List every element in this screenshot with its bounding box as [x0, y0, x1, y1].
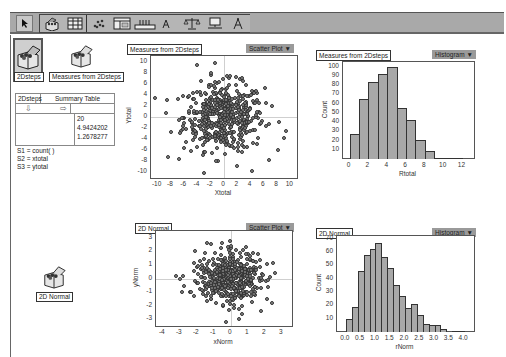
x-tick-label: 1.5	[381, 334, 397, 341]
data-point	[184, 127, 188, 131]
data-point	[229, 244, 233, 248]
collection-2dsteps[interactable]	[15, 44, 41, 71]
compass-tool-button[interactable]	[227, 15, 250, 32]
summary-table-tool-button[interactable]	[111, 15, 134, 32]
data-point	[214, 289, 218, 293]
data-point	[237, 267, 241, 271]
data-point	[256, 136, 260, 140]
web-view-tool-button[interactable]	[204, 15, 227, 32]
data-point	[232, 130, 236, 134]
data-point	[201, 143, 205, 147]
summary-value-s3: 1.2678277	[77, 132, 114, 141]
data-point	[205, 299, 209, 303]
data-point	[234, 103, 238, 107]
data-point	[240, 150, 244, 154]
data-point	[245, 130, 249, 134]
data-point	[213, 251, 217, 255]
x-axis-label: Xtotal	[211, 189, 235, 196]
data-point	[178, 131, 182, 135]
y-tick-label: 30	[320, 287, 333, 294]
collection-label-measures[interactable]: Measures from 2Dsteps	[49, 72, 124, 82]
scatter-plot-xnorm-ynorm[interactable]	[155, 230, 293, 327]
collection-label-2d-normal[interactable]: 2D Normal	[36, 292, 73, 302]
y-tick-label: 70	[326, 89, 339, 96]
graph-tool-button[interactable]	[87, 15, 110, 32]
data-point	[266, 278, 270, 282]
data-point	[205, 285, 209, 289]
data-point	[229, 125, 233, 129]
data-point	[245, 290, 249, 294]
data-point	[259, 286, 263, 290]
data-point	[237, 307, 241, 311]
collection-2d-normal[interactable]	[42, 265, 66, 290]
histogram-bar	[453, 158, 463, 159]
data-point	[248, 107, 252, 111]
data-box-tool-button[interactable]	[40, 15, 63, 32]
data-point	[244, 252, 248, 256]
data-point	[258, 258, 262, 262]
right-arrow-drop-target-icon[interactable]: ⇨	[41, 104, 71, 113]
data-point	[237, 294, 241, 298]
data-point	[219, 88, 223, 92]
collection-label-2dsteps[interactable]: 2Dsteps	[14, 72, 44, 82]
y-tick-label: 70	[320, 234, 333, 241]
data-point	[276, 148, 280, 152]
histogram-rtotal[interactable]	[342, 61, 475, 159]
data-point	[258, 265, 262, 269]
slider-tool-button[interactable]	[134, 15, 157, 32]
monitor-icon	[207, 17, 223, 30]
x-tick-label: 8	[416, 161, 432, 168]
y-tick-label: 4	[134, 90, 147, 97]
data-point	[259, 121, 263, 125]
data-point	[255, 142, 259, 146]
x-tick-label: 4	[244, 180, 256, 187]
x-tick-label: 10	[435, 161, 451, 168]
data-point	[189, 149, 193, 153]
formula-s1[interactable]: S1 = count( )	[17, 147, 54, 155]
y-tick-label: -2	[139, 301, 152, 308]
y-tick-label: 20	[320, 300, 333, 307]
summary-collection-name: 2Dsteps	[16, 94, 41, 103]
data-point	[214, 301, 218, 305]
text-icon	[161, 17, 177, 30]
x-tick-label: 1	[241, 328, 253, 335]
data-point	[254, 260, 258, 264]
collection-measures[interactable]	[69, 44, 93, 69]
data-point	[277, 120, 281, 124]
y-tick-label: -6	[134, 145, 147, 152]
x-tick-label: 2	[258, 328, 270, 335]
histogram-rnorm[interactable]	[336, 235, 475, 332]
data-point	[202, 171, 206, 175]
x-tick-label: 0	[341, 161, 357, 168]
table-tool-button[interactable]	[63, 15, 86, 32]
graph-1-type-menu[interactable]: Scatter Plot ▼	[246, 44, 294, 53]
x-tick-label: 3.0	[426, 334, 442, 341]
formula-s3[interactable]: S3 = ytotal	[17, 163, 54, 171]
data-point	[180, 290, 184, 294]
summary-values: 20 4.9424202 1.2678277	[74, 114, 114, 145]
data-point	[211, 263, 215, 267]
data-point	[208, 133, 212, 137]
y-tick-label: 2	[139, 246, 152, 253]
down-arrow-drop-target-icon[interactable]: ⇩	[16, 104, 41, 113]
data-point	[193, 279, 197, 283]
y-tick-label: 10	[320, 314, 333, 321]
formula-s2[interactable]: S2 = xtotal	[17, 155, 54, 163]
data-point	[221, 303, 225, 307]
data-point	[250, 169, 254, 173]
data-point	[213, 134, 217, 138]
data-point	[182, 146, 186, 150]
data-point	[223, 152, 227, 156]
scales-tool-button[interactable]	[180, 15, 203, 32]
data-point	[248, 254, 252, 258]
data-point	[223, 107, 227, 111]
data-point	[251, 259, 255, 263]
scatter-plot-xtotal-ytotal[interactable]	[150, 55, 298, 179]
text-tool-button[interactable]	[157, 15, 180, 32]
arrow-tool-button[interactable]	[16, 15, 33, 32]
scales-icon	[183, 17, 201, 30]
summary-table[interactable]: 2Dsteps Summary Table ⇩ ⇨ 20 4.9424202 1…	[15, 93, 115, 146]
data-point	[258, 111, 262, 115]
graph-2-type-menu[interactable]: Histogram ▼	[432, 50, 476, 59]
data-point	[215, 270, 219, 274]
